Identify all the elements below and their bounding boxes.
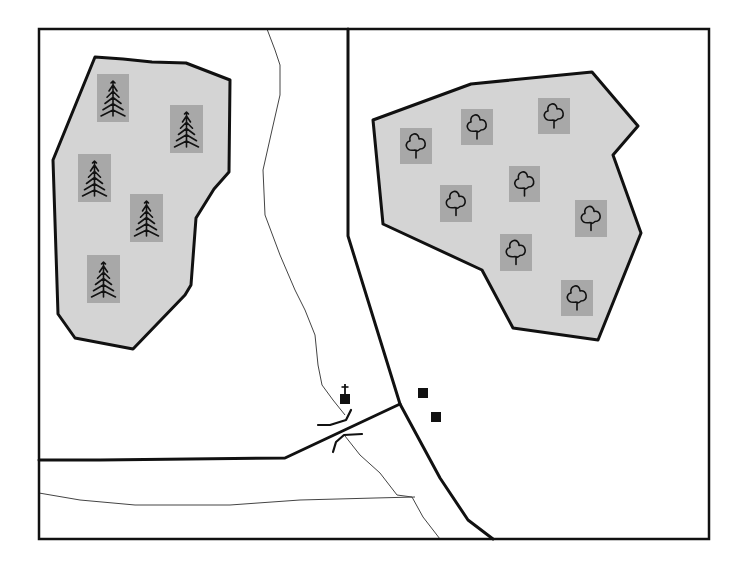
deciduous-tree-icon — [461, 109, 493, 145]
conifer-tree-icon — [97, 74, 129, 122]
conifer-tree-icon — [170, 105, 203, 153]
deciduous-tree-icon — [500, 234, 532, 271]
conifer-tree-icon — [78, 154, 111, 202]
conifer-tree-icon — [87, 255, 120, 303]
deciduous-tree-icon — [400, 128, 432, 164]
building-2-icon — [431, 412, 441, 422]
deciduous-tree-icon — [440, 185, 472, 222]
deciduous-tree-icon — [575, 200, 607, 237]
deciduous-tree-icon — [509, 166, 540, 202]
conifer-tree-icon — [130, 194, 163, 242]
building-1-icon — [418, 388, 428, 398]
deciduous-tree-icon — [538, 98, 570, 134]
deciduous-tree-icon — [561, 280, 593, 316]
topographic-map — [0, 0, 740, 565]
church-icon — [340, 384, 350, 404]
